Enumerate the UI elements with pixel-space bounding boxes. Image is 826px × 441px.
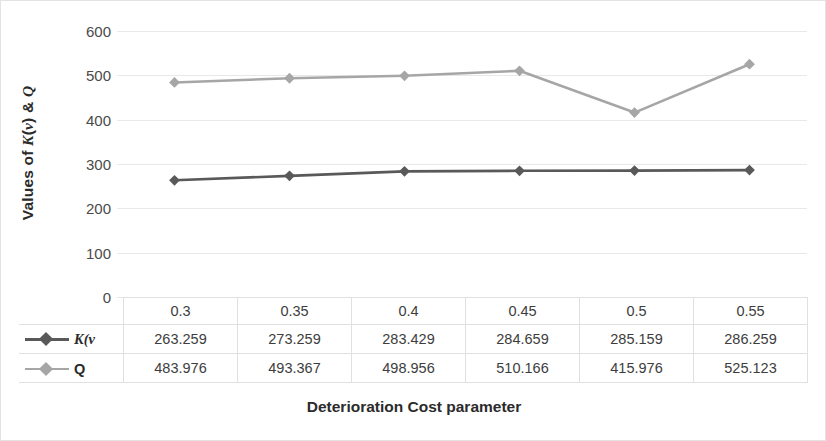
y-axis-title: Values of K(v) & Q [13, 23, 43, 283]
series-marker [629, 107, 640, 118]
plot-area [117, 31, 807, 297]
series-marker [169, 175, 180, 186]
legend-entry[interactable]: Q [19, 354, 124, 383]
x-axis-category-label: 0.4 [352, 298, 466, 325]
legend-inline: Q [25, 361, 85, 377]
y-axis-tick-label: 500 [51, 67, 111, 84]
legend-label: K(v [74, 331, 95, 348]
series-marker [514, 65, 525, 76]
y-axis-tick-label: 200 [51, 200, 111, 217]
series-line [175, 170, 750, 180]
series-marker [284, 73, 295, 84]
table-cell-value: 285.159 [580, 325, 694, 354]
plot-series-svg [117, 31, 807, 297]
data-table: 0.30.350.40.450.50.55K(v263.259273.25928… [19, 297, 808, 383]
x-axis-category-label: 0.3 [124, 298, 238, 325]
x-axis-category-label: 0.35 [238, 298, 352, 325]
x-axis-title: Deterioration Cost parameter [1, 398, 826, 416]
series-marker [399, 166, 410, 177]
table-cell-value: 273.259 [238, 325, 352, 354]
y-axis-symbol-v: v [19, 123, 36, 130]
x-axis-category-label: 0.55 [694, 298, 808, 325]
legend-diamond-icon [39, 332, 53, 346]
legend-label: Q [74, 361, 85, 377]
table-cell-value: 498.956 [352, 354, 466, 383]
y-axis-tick-label: 400 [51, 111, 111, 128]
y-axis-title-text: Values of K(v) & Q [19, 86, 37, 221]
legend-inline: K(v [25, 331, 95, 348]
chart-figure: Values of K(v) & Q 0100200300400500600 0… [0, 0, 826, 441]
table-row: Q483.976493.367498.956510.166415.976525.… [19, 354, 808, 383]
table-cell-value: 286.259 [694, 325, 808, 354]
table-cell-value: 284.659 [466, 325, 580, 354]
series-line [175, 64, 750, 112]
y-axis-tick-label: 100 [51, 244, 111, 261]
legend-diamond-icon [39, 362, 53, 376]
table-corner-cell [19, 298, 124, 325]
legend-entry[interactable]: K(v [19, 325, 124, 354]
y-axis-tick-label: 600 [51, 23, 111, 40]
table-cell-value: 510.166 [466, 354, 580, 383]
series-marker [514, 165, 525, 176]
series-marker [169, 77, 180, 88]
table-cell-value: 525.123 [694, 354, 808, 383]
y-axis-tick-label: 300 [51, 156, 111, 173]
table-cell-value: 483.976 [124, 354, 238, 383]
y-axis-symbol-q: Q [19, 86, 36, 97]
table-cell-value: 493.367 [238, 354, 352, 383]
series-marker [284, 170, 295, 181]
table-row: K(v263.259273.259283.429284.659285.15928… [19, 325, 808, 354]
y-axis-symbol-k: K [19, 135, 36, 146]
series-marker [629, 165, 640, 176]
table-header-row: 0.30.350.40.450.50.55 [19, 298, 808, 325]
legend-line-marker-icon [25, 333, 69, 345]
table-cell-value: 415.976 [580, 354, 694, 383]
series-marker [744, 59, 755, 70]
legend-line-marker-icon [25, 363, 69, 375]
series-marker [399, 70, 410, 81]
x-axis-category-label: 0.45 [466, 298, 580, 325]
table-cell-value: 283.429 [352, 325, 466, 354]
x-axis-category-label: 0.5 [580, 298, 694, 325]
table-cell-value: 263.259 [124, 325, 238, 354]
series-marker [744, 165, 755, 176]
